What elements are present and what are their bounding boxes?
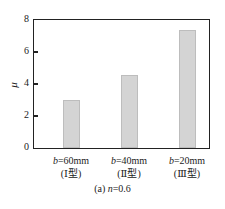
y-tick [34,115,38,117]
bar-type-2 [121,75,138,148]
x-type: (Ⅲ型) [157,167,217,180]
figure-caption: (a) n=0.6 [0,183,225,194]
x-type: (Ⅰ型) [41,167,101,180]
cut-off-text-fragment [80,205,140,209]
x-category-1: b=60mm (Ⅰ型) [41,154,101,180]
x-category-3: b=20mm (Ⅲ型) [157,154,217,180]
bar-type-1 [63,100,80,148]
x-value: =20mm [174,155,205,166]
bar-type-3 [179,30,196,148]
x-value: =40mm [116,155,147,166]
y-tick [34,83,38,85]
x-value: =60mm [58,155,89,166]
y-tick [34,51,38,53]
x-category-2: b=40mm (Ⅱ型) [99,154,159,180]
caption-value: =0.6 [113,183,131,194]
plot-area [33,19,210,149]
y-tick-label-6: 6 [17,45,29,56]
y-tick-label-2: 2 [17,109,29,120]
y-tick-label-0: 0 [17,141,29,152]
y-tick-label-4: 4 [17,77,29,88]
y-tick-label-8: 8 [17,13,29,24]
caption-prefix: (a) [94,183,108,194]
x-type: (Ⅱ型) [99,167,159,180]
